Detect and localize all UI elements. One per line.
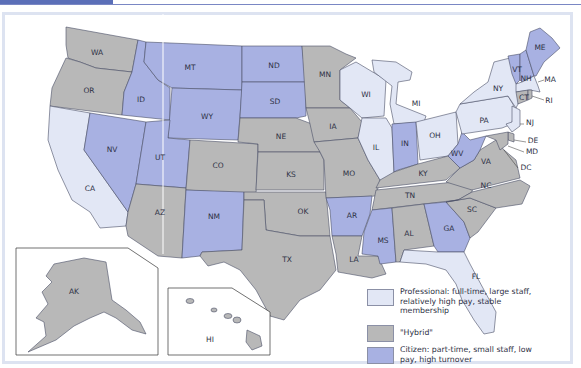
svg-text:WY: WY: [201, 112, 213, 121]
swatch-citizen: [367, 347, 394, 364]
legend-item-hybrid: "Hybrid": [367, 323, 545, 342]
state-AZ[interactable]: [126, 184, 186, 258]
svg-text:SC: SC: [467, 205, 477, 214]
svg-text:ID: ID: [137, 95, 145, 104]
svg-text:VT: VT: [512, 65, 522, 74]
svg-text:MN: MN: [319, 70, 331, 79]
svg-text:ND: ND: [268, 61, 280, 70]
svg-text:DE: DE: [528, 136, 539, 145]
svg-text:DC: DC: [520, 163, 531, 172]
svg-text:AK: AK: [69, 287, 80, 296]
svg-text:PA: PA: [479, 116, 489, 125]
svg-text:UT: UT: [155, 153, 165, 162]
svg-text:IN: IN: [401, 139, 409, 148]
legend-item-citizen: Citizen: part-time, small staff, low pay…: [367, 345, 545, 364]
svg-text:AZ: AZ: [155, 208, 165, 217]
svg-text:TN: TN: [404, 191, 415, 200]
svg-text:AR: AR: [347, 211, 357, 220]
svg-text:MI: MI: [412, 99, 421, 108]
svg-text:CT: CT: [519, 93, 529, 102]
swatch-hybrid: [367, 325, 394, 342]
svg-text:TX: TX: [281, 255, 292, 264]
svg-text:NV: NV: [107, 145, 119, 154]
svg-text:OR: OR: [83, 86, 94, 95]
svg-text:OH: OH: [429, 131, 441, 140]
legend-item-professional: Professional: full-time, large staff, re…: [367, 287, 545, 316]
legend-label-citizen: Citizen: part-time, small staff, low pay…: [400, 345, 545, 364]
svg-text:MS: MS: [377, 236, 388, 245]
svg-text:FL: FL: [472, 272, 481, 281]
svg-text:CA: CA: [85, 184, 96, 193]
svg-text:VA: VA: [481, 157, 492, 166]
swatch-professional: [367, 289, 394, 306]
svg-text:NC: NC: [481, 181, 492, 190]
svg-text:MO: MO: [343, 169, 355, 178]
svg-text:NM: NM: [208, 212, 220, 221]
legend-label-hybrid: "Hybrid": [400, 328, 545, 338]
svg-text:NE: NE: [276, 132, 287, 141]
svg-text:MA: MA: [544, 75, 556, 84]
svg-text:KS: KS: [286, 170, 296, 179]
svg-text:IL: IL: [373, 143, 380, 152]
state-DE[interactable]: [508, 132, 514, 142]
svg-text:OK: OK: [298, 207, 310, 216]
svg-text:WA: WA: [91, 48, 104, 57]
svg-text:MT: MT: [184, 63, 195, 72]
svg-text:ME: ME: [534, 43, 545, 52]
state-NM[interactable]: [182, 190, 244, 258]
svg-text:NJ: NJ: [526, 118, 534, 127]
legend-label-professional: Professional: full-time, large staff, re…: [400, 287, 545, 316]
svg-text:NH: NH: [520, 74, 531, 83]
svg-text:RI: RI: [545, 96, 552, 105]
svg-text:CO: CO: [212, 161, 223, 170]
svg-text:GA: GA: [444, 224, 456, 233]
svg-text:WV: WV: [451, 149, 464, 158]
svg-text:KY: KY: [418, 169, 428, 178]
svg-text:AL: AL: [404, 229, 414, 238]
svg-text:LA: LA: [349, 255, 359, 264]
svg-text:MD: MD: [526, 147, 538, 156]
svg-text:WI: WI: [361, 90, 371, 99]
svg-text:NY: NY: [493, 84, 504, 93]
svg-text:IA: IA: [329, 122, 337, 131]
svg-text:SD: SD: [270, 97, 281, 106]
svg-text:HI: HI: [206, 335, 214, 344]
